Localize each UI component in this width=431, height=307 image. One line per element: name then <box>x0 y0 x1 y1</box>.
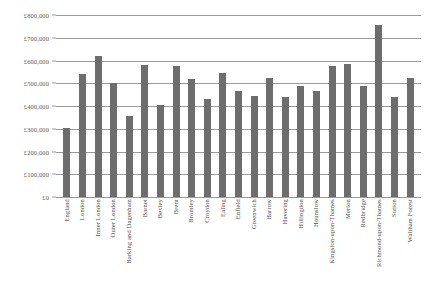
bar <box>204 99 211 197</box>
x-axis-tick-label: Ealing <box>220 199 227 217</box>
bar <box>297 86 304 197</box>
x-axis-tick: Harrow <box>262 199 278 307</box>
bar-slot <box>356 15 372 197</box>
bar <box>282 97 289 197</box>
bar-slot <box>121 15 137 197</box>
x-axis-tick: Hounslow <box>309 199 325 307</box>
x-axis-tick: Kingston-upon-Thames <box>324 199 340 307</box>
x-axis-tick: Havering <box>278 199 294 307</box>
x-axis-tick: England <box>59 199 75 307</box>
bar <box>251 96 258 197</box>
x-axis-tick: Barnet <box>137 199 153 307</box>
bar <box>391 97 398 197</box>
bar-slot <box>371 15 387 197</box>
bar-slot <box>90 15 106 197</box>
x-axis-tick-label: Enfield <box>235 199 242 219</box>
bar-slot <box>106 15 122 197</box>
bar-slot <box>215 15 231 197</box>
bar <box>157 105 164 197</box>
x-axis-tick: Bexley <box>153 199 169 307</box>
x-axis-tick: Bromley <box>184 199 200 307</box>
x-axis-tick-label: Richmond-upon-Thames <box>376 199 383 267</box>
bar <box>173 66 180 197</box>
x-axis-tick: Enfield <box>231 199 247 307</box>
x-axis-tick: Sutton <box>387 199 403 307</box>
bar-slot <box>340 15 356 197</box>
x-axis-tick-label: Greenwich <box>251 199 258 229</box>
bar <box>63 128 70 197</box>
x-axis-tick-label: Brent <box>173 199 180 214</box>
bar <box>360 86 367 197</box>
x-axis-tick: Outer London <box>106 199 122 307</box>
x-axis-tick-label: Harrow <box>266 199 273 220</box>
bar <box>141 65 148 197</box>
x-axis-tick-label: Havering <box>282 199 289 224</box>
bar-chart: £800,000£700,000£600,000£500,000£400,000… <box>0 0 431 307</box>
bar-slot <box>309 15 325 197</box>
plot-area <box>56 15 421 197</box>
bar-slot <box>199 15 215 197</box>
x-axis-tick-label: Merton <box>345 199 352 219</box>
bar-slot <box>324 15 340 197</box>
bar <box>79 74 86 197</box>
y-axis-tick-label: £800,000 <box>24 12 49 19</box>
bar-slot <box>75 15 91 197</box>
x-axis-tick-label: Barnet <box>142 199 149 217</box>
bar-slot <box>231 15 247 197</box>
y-axis-tick-label: £400,000 <box>24 103 49 110</box>
bar <box>126 116 133 197</box>
bar-slot <box>246 15 262 197</box>
bar <box>95 56 102 197</box>
x-axis-tick-label: Barking and Dagenham <box>126 199 133 264</box>
y-axis-tick-label: £100,000 <box>24 171 49 178</box>
bar <box>375 25 382 197</box>
x-axis-tick-label: Waltham Forest <box>407 199 414 242</box>
x-axis-tick-label: London <box>79 199 86 220</box>
bar-slot <box>293 15 309 197</box>
bars-layer <box>56 15 421 197</box>
x-axis-tick: London <box>75 199 91 307</box>
y-axis-tick-label: £500,000 <box>24 80 49 87</box>
x-axis-tick: Merton <box>340 199 356 307</box>
y-axis-tick-label: £600,000 <box>24 57 49 64</box>
x-axis-tick-label: Bexley <box>157 199 164 218</box>
bar <box>188 79 195 197</box>
bar-slot <box>137 15 153 197</box>
x-axis-tick-label: Hillingdon <box>298 199 305 229</box>
y-axis: £800,000£700,000£600,000£500,000£400,000… <box>0 0 56 212</box>
bar <box>344 64 351 197</box>
bar-slot <box>278 15 294 197</box>
bar <box>407 78 414 197</box>
y-axis-tick-label: £700,000 <box>24 34 49 41</box>
x-axis-tick-label: Croydon <box>204 199 211 223</box>
x-axis-tick: Redbridge <box>356 199 372 307</box>
x-axis-tick: Ealing <box>215 199 231 307</box>
x-axis-tick: Waltham Forest <box>402 199 418 307</box>
x-axis-tick-label: Kingston-upon-Thames <box>329 199 336 264</box>
gridline <box>56 197 421 198</box>
bar-slot <box>262 15 278 197</box>
x-axis-tick-label: Outer London <box>110 199 117 237</box>
x-axis-tick: Richmond-upon-Thames <box>371 199 387 307</box>
y-axis-tick-label: £0 <box>42 194 49 201</box>
x-axis-tick-label: Bromley <box>188 199 195 223</box>
x-axis-tick: Brent <box>168 199 184 307</box>
x-axis-tick: Greenwich <box>246 199 262 307</box>
bar-slot <box>168 15 184 197</box>
x-axis-tick-label: Redbridge <box>360 199 367 227</box>
x-axis-tick-label: England <box>64 199 71 222</box>
x-axis-tick-label: Inner London <box>95 199 102 236</box>
x-axis-tick: Inner London <box>90 199 106 307</box>
bar <box>313 91 320 197</box>
bar-slot <box>387 15 403 197</box>
x-axis-tick-label: Hounslow <box>313 199 320 227</box>
x-axis: EnglandLondonInner LondonOuter LondonBar… <box>56 199 421 307</box>
bar <box>266 78 273 197</box>
bar-slot <box>59 15 75 197</box>
y-axis-tick-label: £300,000 <box>24 125 49 132</box>
bar-slot <box>184 15 200 197</box>
bar <box>219 73 226 197</box>
bar <box>329 66 336 197</box>
y-axis-tick-label: £200,000 <box>24 148 49 155</box>
x-axis-tick-label: Sutton <box>391 199 398 217</box>
